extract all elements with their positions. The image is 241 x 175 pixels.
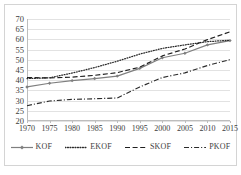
gridline — [27, 121, 230, 122]
x-tick-mark — [230, 121, 231, 123]
y-tick-label: 40 — [16, 76, 25, 85]
legend-swatch-pkof-icon — [184, 143, 206, 152]
legend-swatch-skof-icon — [125, 143, 147, 152]
data-point-marker-kof — [183, 52, 186, 55]
legend-label: EKOF — [90, 143, 112, 151]
legend-label: KOF — [36, 143, 53, 151]
x-tick-label: 2015 — [222, 125, 238, 133]
data-point-marker-kof — [206, 43, 209, 46]
y-tick-label: 50 — [16, 56, 25, 65]
x-tick-label: 1995 — [132, 125, 148, 133]
x-tick-label: 1970 — [19, 125, 35, 133]
legend-item-kof[interactable]: KOF — [11, 143, 53, 152]
legend-swatch-kof-icon — [11, 143, 33, 152]
x-tick-mark — [117, 121, 118, 123]
legend-label: SKOF — [150, 143, 171, 151]
series-line-skof — [27, 32, 230, 78]
x-tick-mark — [185, 121, 186, 123]
y-tick-label: 35 — [16, 86, 25, 95]
y-tick-label: 25 — [16, 107, 25, 116]
x-tick-label: 2005 — [177, 125, 193, 133]
x-tick-mark — [207, 121, 208, 123]
legend-swatch-ekof-icon — [65, 143, 87, 152]
legend-item-skof[interactable]: SKOF — [125, 143, 171, 152]
series-layer — [27, 19, 230, 121]
x-tick-mark — [140, 121, 141, 123]
y-tick-label: 55 — [16, 45, 25, 54]
chart-legend: KOFEKOFSKOFPKOF — [8, 140, 233, 154]
line-chart-figure: 2025303540455055606570 19701975198019851… — [0, 0, 241, 175]
x-tick-mark — [162, 121, 163, 123]
data-point-marker-kof — [93, 77, 96, 80]
series-line-kof — [27, 41, 230, 87]
data-point-marker-kof — [116, 74, 119, 77]
data-point-marker-kof — [48, 82, 51, 85]
y-tick-label: 70 — [16, 15, 25, 24]
y-tick-label: 45 — [16, 66, 25, 75]
x-tick-label: 2010 — [199, 125, 215, 133]
y-tick-label: 30 — [16, 96, 25, 105]
legend-label: PKOF — [209, 143, 230, 151]
x-tick-mark — [72, 121, 73, 123]
plot-area: 2025303540455055606570 19701975198019851… — [27, 19, 230, 121]
x-tick-label: 1985 — [87, 125, 103, 133]
y-tick-label: 65 — [16, 25, 25, 34]
x-tick-label: 1980 — [64, 125, 80, 133]
data-point-marker-kof — [70, 79, 73, 82]
legend-item-pkof[interactable]: PKOF — [184, 143, 230, 152]
x-tick-mark — [95, 121, 96, 123]
x-tick-label: 2000 — [154, 125, 170, 133]
x-tick-mark — [50, 121, 51, 123]
legend-item-ekof[interactable]: EKOF — [65, 143, 112, 152]
y-tick-label: 60 — [16, 35, 25, 44]
x-tick-label: 1975 — [42, 125, 58, 133]
x-tick-label: 1990 — [109, 125, 125, 133]
x-tick-mark — [27, 121, 28, 123]
